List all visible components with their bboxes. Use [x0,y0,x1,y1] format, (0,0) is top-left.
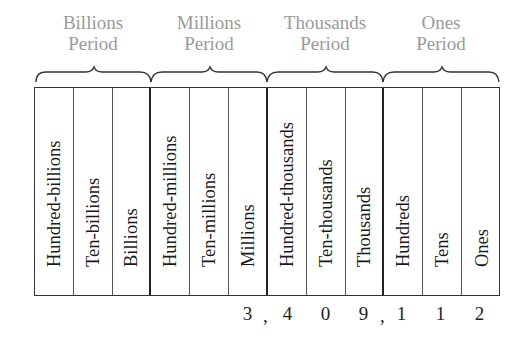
column-thousands: Thousands [346,88,385,295]
column-billions: Billions [113,88,152,295]
column-label: Hundred-thousands [277,122,297,267]
column-ten-thousands: Ten-thousands [307,88,346,295]
column-ten-billions: Ten-billions [74,88,113,295]
column-hundreds: Hundreds [384,88,423,295]
column-millions: Millions [229,88,268,295]
column-hundred-millions: Hundred-millions [151,88,190,295]
column-label: Ten-millions [199,173,219,267]
column-tens: Tens [423,88,462,295]
digit-thousands: 9 [344,303,383,325]
column-label: Ten-thousands [316,159,336,267]
digit-hundreds: 1 [382,303,421,325]
brace-ones [383,67,499,82]
digit-tens: 1 [421,303,460,325]
column-label: Hundred-millions [160,135,180,267]
column-ones: Ones [462,88,501,295]
column-label: Billions [121,208,141,267]
column-label: Ten-billions [83,178,103,267]
digit-ones: 2 [460,303,499,325]
column-label: Tens [432,232,452,267]
digit-millions: 3 [228,303,267,325]
column-ten-millions: Ten-millions [190,88,229,295]
column-label: Hundred-billions [44,141,64,267]
place-value-table: Hundred-billions Ten-billions Billions H… [34,87,500,296]
column-hundred-billions: Hundred-billions [35,88,74,295]
digit-hundred-thousands: 4 [268,303,307,325]
column-hundred-thousands: Hundred-thousands [268,88,307,295]
column-label: Millions [238,204,258,267]
column-label: Thousands [354,187,374,267]
brace-billions [36,67,151,82]
brace-thousands [267,67,383,82]
period-braces [0,0,527,90]
brace-millions [151,67,267,82]
column-label: Hundreds [393,195,413,267]
column-label: Ones [472,229,492,267]
digit-ten-thousands: 0 [306,303,345,325]
